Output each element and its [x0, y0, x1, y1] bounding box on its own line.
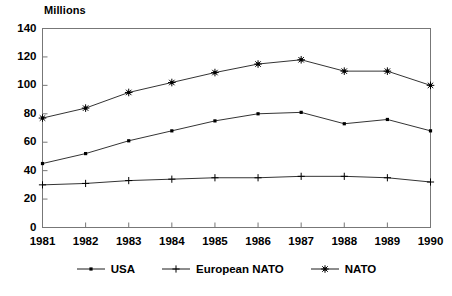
chart-series: [39, 56, 435, 188]
y-axis-tick-label: 140: [0, 22, 37, 34]
data-point-marker-dot: [41, 162, 44, 165]
data-point-marker-dot: [84, 152, 87, 155]
legend-entry[interactable]: USA: [76, 262, 135, 276]
plot-area: [0, 0, 452, 296]
legend-entry[interactable]: European NATO: [161, 262, 284, 276]
y-axis-tick-label: 20: [0, 192, 37, 204]
data-point-marker-dot: [213, 119, 216, 122]
data-point-marker-star: [84, 107, 87, 110]
line-chart: Millions 020406080100120140 198119821983…: [0, 0, 452, 296]
plot-frame: [43, 29, 431, 228]
data-point-marker-dot: [343, 122, 346, 125]
y-axis-tick-label: 80: [0, 107, 37, 119]
chart-axes: [43, 29, 431, 228]
chart-legend: USAEuropean NATONATO: [0, 262, 452, 276]
data-point-marker-star: [323, 268, 326, 271]
series-line: [43, 176, 431, 185]
legend-marker-dot-icon: [76, 262, 106, 276]
data-point-marker-star: [429, 84, 432, 87]
data-point-marker-star: [213, 71, 216, 74]
data-point-marker-star: [170, 81, 173, 84]
legend-label: European NATO: [196, 263, 284, 275]
data-point-marker-dot: [127, 139, 130, 142]
series-line: [43, 60, 431, 118]
legend-label: USA: [111, 263, 135, 275]
legend-label: NATO: [345, 263, 377, 275]
data-point-marker-star: [300, 58, 303, 61]
data-point-marker-dot: [256, 112, 259, 115]
data-point-marker-dot: [300, 111, 303, 114]
data-point-marker-star: [127, 91, 130, 94]
y-axis-tick-label: 100: [0, 78, 37, 90]
y-axis-tick-label: 120: [0, 50, 37, 62]
data-point-marker-star: [41, 117, 44, 120]
legend-entry[interactable]: NATO: [310, 262, 377, 276]
series-european-nato: [39, 173, 434, 189]
series-line: [43, 112, 431, 163]
data-point-marker-star: [386, 70, 389, 73]
legend-marker-plus-icon: [161, 262, 191, 276]
x-axis-tick-label: 1990: [406, 235, 452, 247]
data-point-marker-dot: [429, 129, 432, 132]
data-point-marker-star: [343, 70, 346, 73]
series-usa: [41, 111, 432, 165]
data-point-marker-dot: [386, 118, 389, 121]
data-point-marker-dot: [89, 267, 92, 270]
data-point-marker-dot: [170, 129, 173, 132]
data-point-marker-star: [257, 63, 260, 66]
legend-marker-star-icon: [310, 262, 340, 276]
y-axis-tick-label: 0: [0, 221, 37, 233]
y-axis-tick-label: 60: [0, 135, 37, 147]
y-axis-tick-label: 40: [0, 164, 37, 176]
series-nato: [39, 56, 435, 122]
